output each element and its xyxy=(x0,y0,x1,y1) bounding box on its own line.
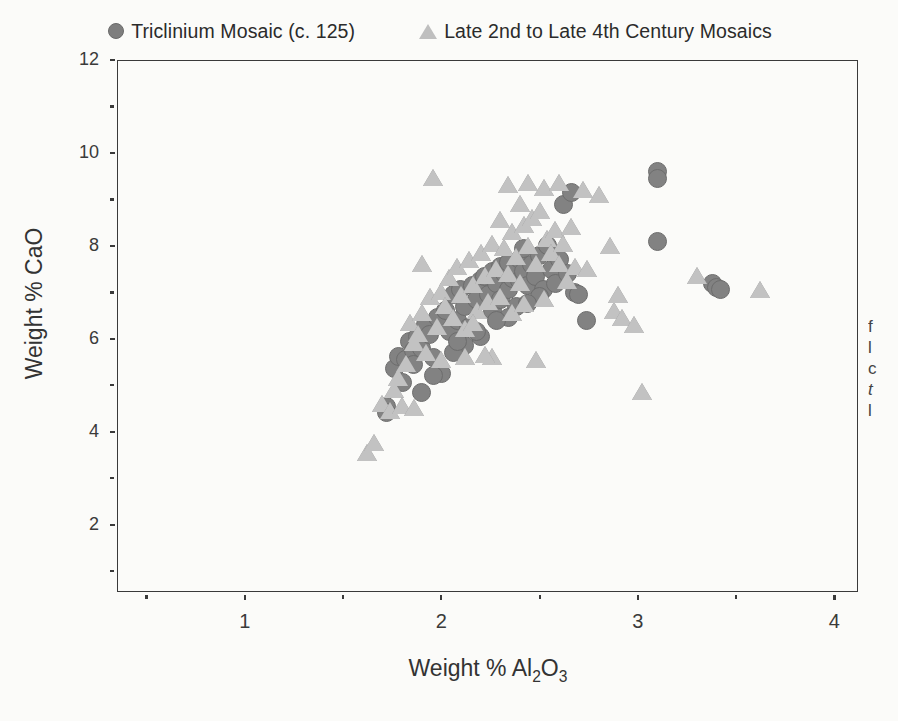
y-axis-minor-tick xyxy=(110,570,114,572)
y-axis-minor-tick xyxy=(110,198,114,200)
x-axis-minor-tick xyxy=(539,595,541,599)
x-axis-tick xyxy=(244,595,246,600)
edge-caption-line-2: l xyxy=(868,337,898,358)
x-axis-minor-tick xyxy=(145,595,147,599)
y-axis-tick xyxy=(110,152,115,154)
figure-page: Triclinium Mosaic (c. 125) Late 2nd to L… xyxy=(0,0,898,721)
x-axis-tick xyxy=(833,595,835,600)
y-axis-tick-label: 6 xyxy=(59,328,99,349)
y-axis-label: Weight % CaO xyxy=(21,204,48,404)
data-point-circle xyxy=(648,232,667,251)
plot-frame xyxy=(117,60,858,592)
x-axis-sub-2: 2 xyxy=(532,668,541,685)
y-axis-tick-label: 10 xyxy=(59,142,99,163)
edge-caption-line-3: c xyxy=(868,358,898,379)
x-axis-label-o: O xyxy=(541,655,559,681)
x-axis-minor-tick xyxy=(735,595,737,599)
x-axis-sub-3: 3 xyxy=(559,668,568,685)
data-point-circle xyxy=(577,311,596,330)
y-axis-minor-tick xyxy=(110,477,114,479)
edge-caption-line-4: t xyxy=(868,379,898,400)
edge-caption-fragment: f l c t l xyxy=(868,316,898,421)
y-axis-tick xyxy=(110,524,115,526)
x-axis-tick-label: 3 xyxy=(618,610,658,633)
x-axis-tick-label: 2 xyxy=(421,610,461,633)
scatter-plot: 246810121234 Weight % Al2O3 Weight % CaO xyxy=(0,0,898,721)
y-axis-tick xyxy=(110,59,115,61)
x-axis-tick-label: 4 xyxy=(814,610,854,633)
edge-caption-line-1: f xyxy=(868,316,898,337)
y-axis-minor-tick xyxy=(110,291,114,293)
y-axis-minor-tick xyxy=(110,105,114,107)
y-axis-tick xyxy=(110,431,115,433)
y-axis-tick xyxy=(110,338,115,340)
x-axis-tick-label: 1 xyxy=(225,610,265,633)
y-axis-tick-label: 2 xyxy=(59,514,99,535)
y-axis-tick-label: 12 xyxy=(59,49,99,70)
x-axis-minor-tick xyxy=(342,595,344,599)
y-axis-tick xyxy=(110,245,115,247)
y-axis-tick-label: 8 xyxy=(59,235,99,256)
edge-caption-line-5: l xyxy=(868,400,898,421)
data-point-circle xyxy=(648,169,667,188)
x-axis-tick xyxy=(440,595,442,600)
y-axis-minor-tick xyxy=(110,384,114,386)
y-axis-tick-label: 4 xyxy=(59,421,99,442)
x-axis-tick xyxy=(637,595,639,600)
x-axis-label-text: Weight % Al xyxy=(409,655,533,681)
x-axis-label: Weight % Al2O3 xyxy=(258,655,718,686)
